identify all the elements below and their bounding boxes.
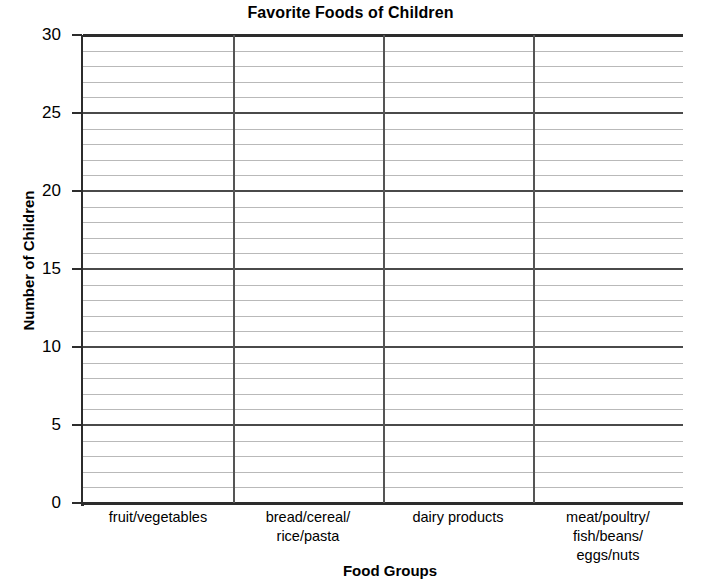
x-axis-category-label: bread/cereal/ rice/pasta (233, 508, 383, 546)
x-axis-category-label: dairy products (383, 508, 533, 527)
column-separator (383, 35, 385, 503)
y-axis-tick-mark (72, 346, 82, 348)
y-axis-tick-mark (72, 34, 82, 36)
y-axis-tick-mark (72, 502, 82, 504)
y-axis-tick-label: 30 (15, 26, 61, 43)
column-separator (233, 35, 235, 503)
column-separator (533, 35, 535, 503)
y-axis-tick-mark (72, 190, 82, 192)
chart-title: Favorite Foods of Children (0, 4, 701, 22)
y-axis-tick-label: 25 (15, 104, 61, 121)
y-axis-tick-label: 20 (15, 182, 61, 199)
y-axis-tick-label: 5 (15, 416, 61, 433)
y-axis-tick-label: 0 (15, 494, 61, 511)
x-axis-title: Food Groups (280, 562, 500, 579)
x-axis-category-label: meat/poultry/ fish/beans/ eggs/nuts (533, 508, 683, 565)
y-axis-tick-mark (72, 268, 82, 270)
y-axis-tick-mark (72, 424, 82, 426)
y-axis-tick-mark (72, 112, 82, 114)
y-axis-tick-label: 10 (15, 338, 61, 355)
x-axis-category-label: fruit/vegetables (83, 508, 233, 527)
plot-area (83, 35, 683, 503)
y-axis-tick-label: 15 (15, 260, 61, 277)
